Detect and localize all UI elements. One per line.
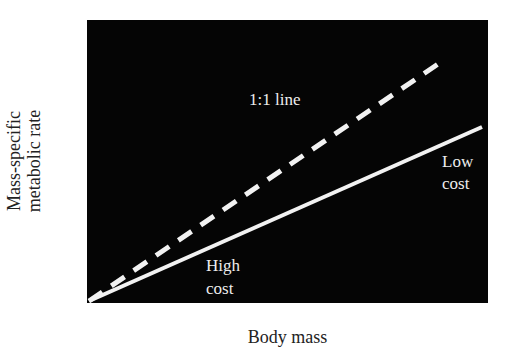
one-to-one-label: 1:1 line [249, 90, 300, 109]
low-cost-label-line2: cost [442, 174, 469, 193]
y-axis-label-line2: metabolic rate [24, 110, 44, 212]
x-axis-label: Body mass [87, 327, 488, 348]
high-cost-label-line1: High [206, 256, 240, 275]
scaling-solid-line [89, 127, 482, 301]
chart-lines [87, 20, 488, 303]
y-axis-label-line1: Mass-specific [4, 111, 24, 211]
high-cost-label-line2: cost [206, 279, 233, 298]
low-cost-label-line1: Low [442, 152, 473, 171]
plot-area: 1:1 line Low cost High cost [87, 20, 488, 303]
